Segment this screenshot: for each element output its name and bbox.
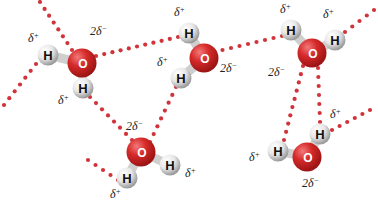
hydrogen-atom: H <box>73 78 94 99</box>
hydrogen-atom: H <box>160 155 181 176</box>
water-molecule: HHO <box>268 124 331 172</box>
hydrogen-atom: H <box>117 168 138 189</box>
water-molecule: HHO <box>117 138 181 189</box>
partial-negative-charge-label: 2δ− <box>268 65 285 79</box>
hydrogen-symbol: H <box>273 144 282 159</box>
molecules-layer: HHOHHOHHOHHOHHO <box>38 20 346 189</box>
hydrogen-symbol: H <box>43 48 52 63</box>
partial-positive-charge-label: δ+ <box>174 5 185 19</box>
water-molecules-canvas: HHOHHOHHOHHOHHO δ+2δ−δ+δ+δ+2δ−δ+δ+2δ−2δ−… <box>0 0 378 205</box>
hydrogen-symbol: H <box>315 127 324 142</box>
oxygen-symbol: O <box>137 146 146 160</box>
partial-positive-charge-label: δ+ <box>323 7 334 21</box>
water-molecule: HHO <box>281 20 346 68</box>
water-molecule: HHO <box>171 23 219 89</box>
oxygen-atom: O <box>293 143 322 172</box>
hydrogen-symbol: H <box>330 33 339 48</box>
partial-positive-charge-label: δ+ <box>185 166 196 180</box>
oxygen-symbol: O <box>78 57 87 71</box>
hydrogen-atom: H <box>310 124 331 145</box>
hydrogen-bonding-diagram: HHOHHOHHOHHOHHO δ+2δ−δ+δ+δ+2δ−δ+δ+2δ−2δ−… <box>0 0 378 205</box>
partial-positive-charge-label: δ+ <box>249 150 260 164</box>
hydrogen-bond-dotted-line <box>282 64 305 142</box>
hydrogen-atom: H <box>179 23 200 44</box>
hydrogen-bond-dotted-line <box>212 34 284 54</box>
hydrogen-bond-dotted-line <box>343 8 376 34</box>
hydrogen-bond-dotted-line <box>316 66 322 124</box>
partial-positive-charge-label: δ+ <box>110 187 121 201</box>
hydrogen-atom: H <box>325 30 346 51</box>
partial-positive-charge-label: δ+ <box>330 107 341 121</box>
hydrogen-symbol: H <box>78 81 87 96</box>
water-molecule: HHO <box>38 45 97 99</box>
hydrogen-bond-dotted-line <box>38 0 74 52</box>
hydrogen-atom: H <box>281 20 302 41</box>
partial-positive-charge-label: δ+ <box>280 2 291 16</box>
hydrogen-atom: H <box>171 68 192 89</box>
oxygen-atom: O <box>190 44 219 73</box>
hydrogen-symbol: H <box>184 26 193 41</box>
hydrogen-bond-dotted-line <box>148 85 178 144</box>
hydrogen-symbol: H <box>122 171 131 186</box>
hydrogen-symbol: H <box>165 158 174 173</box>
partial-positive-charge-label: δ+ <box>157 55 168 69</box>
oxygen-atom: O <box>68 49 97 78</box>
partial-positive-charge-label: δ+ <box>28 31 39 45</box>
oxygen-atom: O <box>127 138 156 167</box>
oxygen-symbol: O <box>303 151 312 165</box>
hydrogen-bond-dotted-line <box>86 158 120 182</box>
hydrogen-symbol: H <box>176 71 185 86</box>
hydrogen-bond-dotted-line <box>2 62 38 107</box>
partial-positive-charge-label: δ+ <box>58 93 69 107</box>
partial-negative-charge-label: 2δ− <box>126 119 143 133</box>
partial-negative-charge-label: 2δ− <box>90 24 107 38</box>
oxygen-symbol: O <box>308 47 317 61</box>
partial-negative-charge-label: 2δ− <box>302 176 319 190</box>
oxygen-atom: O <box>298 39 327 68</box>
partial-negative-charge-label: 2δ− <box>220 61 237 75</box>
hydrogen-atom: H <box>38 45 59 66</box>
oxygen-symbol: O <box>200 52 209 66</box>
hydrogen-atom: H <box>268 141 289 162</box>
hydrogen-symbol: H <box>286 23 295 38</box>
